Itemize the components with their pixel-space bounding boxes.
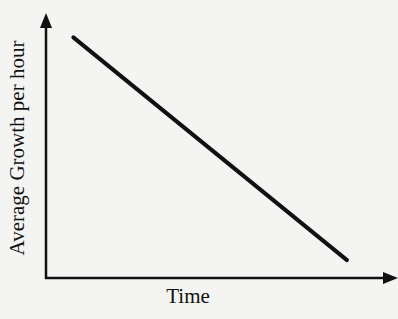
x-axis-label: Time [166,284,210,309]
y-axis-arrow-icon [40,13,52,28]
x-axis-arrow-icon [383,272,398,284]
y-axis-label: Average Growth per hour [5,41,30,256]
chart-canvas [0,0,398,319]
series-line [73,37,347,260]
